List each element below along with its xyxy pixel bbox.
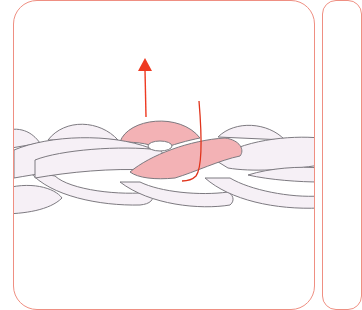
chain-loop-back-3	[218, 125, 285, 140]
active-loop-hole	[148, 141, 172, 151]
next-diagram-panel-edge	[322, 0, 362, 310]
arrow-up-icon	[138, 58, 152, 117]
chain-loop-lower-left	[0, 185, 62, 214]
